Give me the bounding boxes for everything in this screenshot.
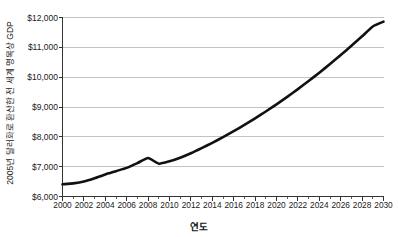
y-axis-title-container: 2005년 달러화로 환산한 전 세계 명목상 GDP — [2, 8, 16, 198]
x-axis-tick-label: 2010 — [160, 200, 178, 210]
y-axis-tick-label: $11,000 — [28, 42, 58, 52]
x-axis-tick-label: 2030 — [374, 200, 392, 210]
x-axis-tick-label: 2022 — [289, 200, 307, 210]
y-axis-tick-label: $9,000 — [32, 102, 58, 112]
x-axis-tick-label: 2028 — [353, 200, 371, 210]
x-axis-tick-label: 2024 — [310, 200, 328, 210]
x-axis-tick-labels: 2000200220042006200820102012201420162018… — [0, 200, 398, 214]
y-axis-tick-label: $7,000 — [32, 162, 58, 172]
gdp-line-chart: 2005년 달러화로 환산한 전 세계 명목상 GDP $12,000$11,0… — [0, 0, 398, 237]
gdp-data-line — [63, 22, 384, 185]
x-axis-tick-label: 2018 — [246, 200, 264, 210]
x-axis-tick-label: 2014 — [203, 200, 221, 210]
x-axis-tick-label: 2012 — [182, 200, 200, 210]
x-axis-title: 연도 — [0, 219, 398, 233]
x-axis-tick-label: 2016 — [224, 200, 242, 210]
y-axis-title: 2005년 달러화로 환산한 전 세계 명목상 GDP — [3, 21, 15, 185]
x-axis-tick-label: 2026 — [331, 200, 349, 210]
y-axis-tick-label: $10,000 — [27, 72, 58, 82]
x-axis-tick-label: 2008 — [139, 200, 157, 210]
x-axis-tick-label: 2000 — [53, 200, 71, 210]
x-axis-tick-label: 2006 — [117, 200, 135, 210]
y-axis-tick-label: $12,000 — [27, 13, 58, 23]
x-axis-tick-label: 2020 — [267, 200, 285, 210]
x-axis-tick-label: 2002 — [75, 200, 93, 210]
x-axis-tick-label: 2004 — [96, 200, 114, 210]
y-axis-tick-label: $8,000 — [32, 132, 58, 142]
